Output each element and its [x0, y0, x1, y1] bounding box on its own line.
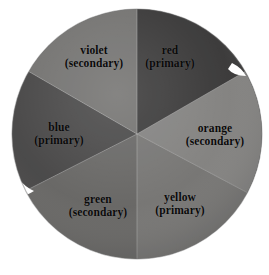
- wedge-label-green-role: (secondary): [52, 206, 144, 219]
- wedge-label-violet-role: (secondary): [51, 57, 137, 70]
- wedge-label-blue-name: blue: [16, 121, 102, 134]
- wedge-label-violet-name: violet: [51, 44, 137, 57]
- wedge-label-orange-role: (secondary): [166, 135, 264, 148]
- wedge-label-orange-name: orange: [166, 122, 264, 135]
- wedge-label-red: red (primary): [131, 44, 209, 70]
- wedge-label-yellow-name: yellow: [137, 191, 223, 204]
- wedge-label-blue-role: (primary): [16, 134, 102, 147]
- wedge-label-orange: orange (secondary): [166, 122, 264, 148]
- wedge-label-violet: violet (secondary): [51, 44, 137, 70]
- wedge-label-red-name: red: [131, 44, 209, 57]
- wedge-label-red-role: (primary): [131, 57, 209, 70]
- wedge-label-yellow: yellow (primary): [137, 191, 223, 217]
- wedge-label-green: green (secondary): [52, 193, 144, 219]
- wedge-label-yellow-role: (primary): [137, 204, 223, 217]
- wedge-label-blue: blue (primary): [16, 121, 102, 147]
- color-wheel-figure: red (primary) orange (secondary) yellow …: [0, 0, 269, 275]
- wedge-label-green-name: green: [52, 193, 144, 206]
